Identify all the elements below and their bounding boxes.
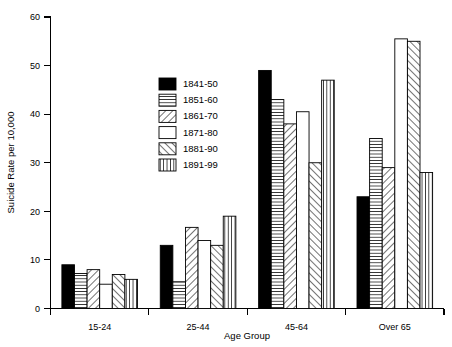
bar bbox=[198, 240, 211, 308]
bar-group bbox=[160, 216, 236, 308]
y-tick-label: 40 bbox=[30, 109, 40, 119]
bars-layer bbox=[62, 39, 433, 309]
legend-label: 1851-60 bbox=[183, 94, 218, 105]
chart-svg: 0102030405060 Suicide Rate per 10,000 15… bbox=[0, 0, 452, 347]
bar bbox=[223, 216, 236, 308]
y-axis: 0102030405060 Suicide Rate per 10,000 bbox=[5, 12, 51, 314]
legend-swatch bbox=[159, 159, 176, 171]
legend-item: 1841-50 bbox=[159, 78, 218, 90]
bar bbox=[284, 124, 297, 309]
bar bbox=[87, 270, 100, 309]
bar bbox=[211, 245, 224, 308]
x-axis: 15-2425-4445-64Over 65 Age Group bbox=[51, 309, 445, 342]
legend-swatch bbox=[159, 127, 176, 139]
bar bbox=[296, 112, 309, 309]
y-tick-label: 20 bbox=[30, 207, 40, 217]
bar bbox=[112, 274, 125, 308]
bar bbox=[125, 279, 138, 308]
x-tick-group: 15-2425-4445-64Over 65 bbox=[51, 309, 445, 332]
bar bbox=[259, 70, 272, 308]
legend-label: 1891-99 bbox=[183, 159, 218, 170]
legend-label: 1881-90 bbox=[183, 143, 218, 154]
y-tick-group: 0102030405060 bbox=[30, 12, 51, 314]
bar bbox=[185, 227, 198, 308]
legend-item: 1861-70 bbox=[159, 110, 218, 122]
bar-group bbox=[62, 265, 138, 309]
legend-label: 1871-80 bbox=[183, 127, 218, 138]
x-axis-title: Age Group bbox=[224, 330, 270, 341]
bar bbox=[309, 163, 322, 309]
bar bbox=[160, 245, 173, 308]
y-tick-label: 30 bbox=[30, 158, 40, 168]
bar bbox=[357, 197, 370, 309]
bar bbox=[322, 80, 335, 308]
bar bbox=[74, 274, 87, 309]
bar bbox=[370, 138, 383, 308]
legend-label: 1841-50 bbox=[183, 78, 218, 89]
bar bbox=[173, 282, 186, 309]
chart-legend: 1841-501851-601861-701871-801881-901891-… bbox=[159, 78, 218, 171]
legend-swatch bbox=[159, 143, 176, 155]
x-tick-label: 45-64 bbox=[285, 322, 308, 332]
legend-swatch bbox=[159, 110, 176, 122]
bar-chart-figure: 0102030405060 Suicide Rate per 10,000 15… bbox=[0, 0, 452, 347]
bar bbox=[271, 100, 284, 309]
y-axis-title: Suicide Rate per 10,000 bbox=[5, 112, 16, 214]
bar bbox=[100, 284, 113, 308]
legend-item: 1891-99 bbox=[159, 159, 218, 171]
bar bbox=[407, 41, 420, 308]
y-tick-label: 10 bbox=[30, 255, 40, 265]
legend-label: 1861-70 bbox=[183, 110, 218, 121]
legend-swatch bbox=[159, 94, 176, 106]
x-tick-label: Over 65 bbox=[379, 322, 411, 332]
bar bbox=[395, 39, 408, 309]
bar bbox=[420, 172, 433, 308]
bar-group bbox=[259, 70, 335, 308]
y-tick-label: 0 bbox=[35, 304, 40, 314]
x-tick-label: 25-44 bbox=[187, 322, 210, 332]
legend-item: 1851-60 bbox=[159, 94, 218, 106]
y-tick-label: 50 bbox=[30, 61, 40, 71]
bar bbox=[382, 168, 395, 309]
bar bbox=[62, 265, 75, 309]
y-tick-label: 60 bbox=[30, 12, 40, 22]
bar-group bbox=[357, 39, 433, 309]
legend-swatch bbox=[159, 78, 176, 90]
legend-item: 1881-90 bbox=[159, 143, 218, 155]
x-tick-label: 15-24 bbox=[88, 322, 111, 332]
legend-item: 1871-80 bbox=[159, 127, 218, 139]
